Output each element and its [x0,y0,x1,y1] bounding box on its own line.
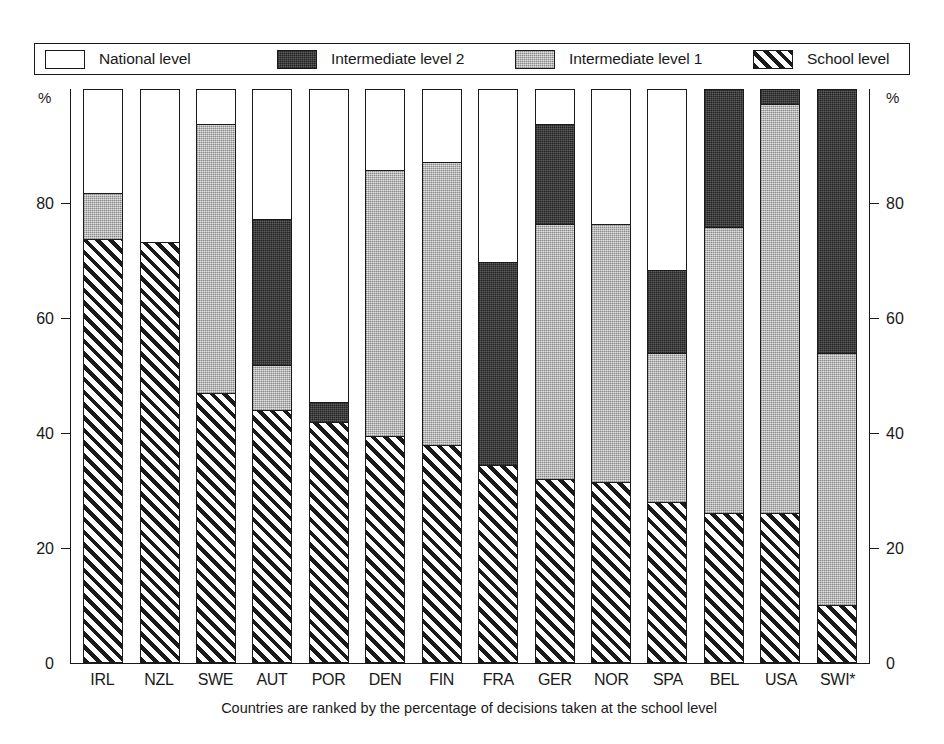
legend-item-intermediate-level-1: Intermediate level 1 [515,44,753,74]
bar-segment-aut-intermediate-level-1 [253,365,291,411]
bar-segment-spa-school-level [648,502,686,662]
y-axis-tick-right-20 [870,548,879,549]
chart-legend: National level Intermediate level 2 Inte… [34,43,910,75]
bar-segment-ger-school-level [536,479,574,662]
bar-nzl [140,89,180,663]
bar-segment-por-school-level [310,422,348,662]
bar-segment-por-intermediate-level-2 [310,402,348,422]
x-axis-label-spa: SPA [648,668,688,692]
y-axis-tick-right-40 [870,433,879,434]
bar-segment-bel-intermediate-level-2 [705,90,743,227]
x-axis-label-swe: SWE [195,668,235,692]
x-axis-label-ger: GER [535,668,575,692]
bar-segment-fin-national-level [423,90,461,162]
bar-segment-swe-national-level [197,90,235,124]
bar-segment-irl-national-level [84,90,122,193]
x-axis-label-den: DEN [365,668,405,692]
y-axis-label-right-20: 20 [886,541,944,557]
bar-segment-nzl-national-level [141,90,179,242]
y-axis-label-left-60: 60 [0,311,54,327]
legend-swatch-intermediate-level-2-icon [277,50,317,69]
bar-bel [704,89,744,663]
legend-item-national-level: National level [45,44,277,74]
bar-segment-usa-school-level [761,513,799,662]
y-axis-label-right-40: 40 [886,426,944,442]
bar-segment-aut-school-level [253,410,291,662]
y-axis-label-right-0: 0 [886,656,944,672]
bar-segment-nor-intermediate-level-1 [592,224,630,481]
y-axis-tick-left-40 [61,433,70,434]
bar-segment-aut-national-level [253,90,291,219]
y-axis-tick-right-80 [870,203,879,204]
x-axis-label-por: POR [309,668,349,692]
bar-swi [817,89,857,663]
bar-segment-den-intermediate-level-1 [366,170,404,436]
y-axis-label-left-80: 80 [0,196,54,212]
bar-segment-ger-intermediate-level-2 [536,124,574,224]
y-axis-label-left-40: 40 [0,426,54,442]
bar-segment-irl-school-level [84,239,122,662]
legend-item-intermediate-level-2: Intermediate level 2 [277,44,515,74]
chart-footnote: Countries are ranked by the percentage o… [0,700,938,716]
y-axis-unit-right: % [886,89,899,106]
bar-segment-bel-intermediate-level-1 [705,227,743,513]
y-axis-tick-left-60 [61,318,70,319]
bar-segment-aut-intermediate-level-2 [253,219,291,365]
legend-item-school-level: School level [753,44,903,74]
bar-segment-por-national-level [310,90,348,402]
bar-segment-fra-school-level [479,465,517,662]
bar-segment-spa-intermediate-level-2 [648,270,686,353]
y-axis-unit-left: % [38,89,51,106]
bar-fra [478,89,518,663]
y-axis-tick-left-80 [61,203,70,204]
x-axis-label-bel: BEL [704,668,744,692]
legend-swatch-school-level-icon [753,50,793,69]
bar-segment-spa-intermediate-level-1 [648,353,686,502]
y-axis-label-right-60: 60 [886,311,944,327]
bar-segment-usa-intermediate-level-2 [761,90,799,104]
bar-segment-nor-national-level [592,90,630,224]
stacked-bars-container [71,89,869,663]
x-axis-label-aut: AUT [252,668,292,692]
y-axis-tick-right-60 [870,318,879,319]
bar-swe [196,89,236,663]
bar-segment-swi-intermediate-level-2 [818,90,856,353]
y-axis-tick-left-20 [61,548,70,549]
legend-label-intermediate-level-2: Intermediate level 2 [331,50,464,68]
bar-segment-fra-intermediate-level-2 [479,262,517,465]
bar-segment-usa-intermediate-level-1 [761,104,799,513]
bar-segment-swe-school-level [197,393,235,662]
bar-por [309,89,349,663]
bar-segment-swi-intermediate-level-1 [818,353,856,605]
bar-segment-ger-intermediate-level-1 [536,224,574,479]
x-axis-label-usa: USA [761,668,801,692]
y-axis-label-right-80: 80 [886,196,944,212]
y-axis-label-left-20: 20 [0,541,54,557]
legend-swatch-national-level-icon [45,50,85,69]
bar-irl [83,89,123,663]
bar-segment-fin-school-level [423,445,461,662]
x-axis-label-swi: SWI* [818,668,858,692]
y-axis-label-left-0: 0 [0,656,54,672]
bar-fin [422,89,462,663]
chart-plot-area [70,89,870,664]
bar-segment-ger-national-level [536,90,574,124]
x-axis-labels: IRLNZLSWEAUTPORDENFINFRAGERNORSPABELUSAS… [70,668,870,692]
x-axis-label-irl: IRL [82,668,122,692]
legend-label-intermediate-level-1: Intermediate level 1 [569,50,702,68]
bar-segment-nor-school-level [592,482,630,662]
bar-segment-nzl-school-level [141,242,179,662]
bar-usa [760,89,800,663]
bar-segment-den-school-level [366,436,404,662]
bar-den [365,89,405,663]
x-axis-label-nzl: NZL [139,668,179,692]
x-axis-label-fin: FIN [422,668,462,692]
bar-segment-bel-school-level [705,513,743,662]
bar-segment-spa-national-level [648,90,686,270]
legend-label-national-level: National level [99,50,191,68]
x-axis-label-fra: FRA [478,668,518,692]
legend-label-school-level: School level [807,50,889,68]
bar-nor [591,89,631,663]
bar-ger [535,89,575,663]
bar-segment-irl-intermediate-level-1 [84,193,122,239]
